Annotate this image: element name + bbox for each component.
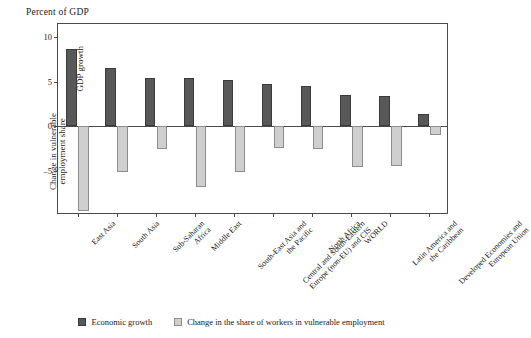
bar-vulnerable-employment-change	[117, 126, 128, 172]
legend-label: Change in the share of workers in vulner…	[187, 317, 384, 327]
legend-swatch-icon	[78, 318, 86, 326]
x-axis-label-line: East Asia	[89, 219, 117, 247]
y-tick-label: 0	[48, 121, 52, 131]
bar-economic-growth	[262, 84, 273, 127]
x-tick-mark	[351, 213, 352, 217]
chart-legend: Economic growthChange in the share of wo…	[0, 317, 463, 327]
bar-vulnerable-employment-change	[352, 126, 363, 167]
x-tick-mark	[429, 213, 430, 217]
x-tick-mark	[390, 213, 391, 217]
y-tick-label: –5	[44, 166, 53, 176]
x-tick-mark	[195, 213, 196, 217]
bar-vulnerable-employment-change	[313, 126, 324, 149]
x-axis-label-line: European Union	[464, 225, 531, 292]
bar-economic-growth	[340, 95, 351, 126]
y-tick-label: 10	[44, 32, 53, 42]
plot-area: GDP growth Change in vulnerable employme…	[57, 23, 448, 214]
bar-vulnerable-employment-change	[391, 126, 402, 166]
x-tick-mark	[234, 213, 235, 217]
y-tick-mark	[54, 37, 58, 38]
x-axis-label: South Asia	[130, 219, 161, 250]
bar-economic-growth	[418, 114, 429, 126]
x-axis-label: Middle East	[209, 219, 243, 253]
bar-economic-growth	[145, 78, 156, 126]
legend-swatch-icon	[174, 318, 182, 326]
chart-title: Percent of GDP	[26, 7, 89, 17]
y-tick-mark	[54, 82, 58, 83]
x-tick-mark	[312, 213, 313, 217]
x-tick-mark	[117, 213, 118, 217]
x-tick-mark	[273, 213, 274, 217]
x-axis-label: Sub-SaharanAfrica	[171, 219, 213, 261]
bar-vulnerable-employment-change	[78, 126, 89, 211]
x-axis-label: East Asia	[89, 219, 117, 247]
y-tick-label: 5	[48, 77, 52, 87]
y-axis-title-gdp-growth: GDP growth	[76, 34, 85, 104]
x-axis-label: Latin America andthe Caribbean	[411, 219, 466, 274]
x-axis-label: Developed Economies andEuropean Union	[458, 219, 531, 293]
bar-economic-growth	[105, 68, 116, 127]
bar-economic-growth	[184, 78, 195, 126]
x-axis-label-line: South Asia	[130, 219, 161, 250]
x-tick-mark	[156, 213, 157, 217]
bar-economic-growth	[66, 49, 77, 126]
bar-economic-growth	[301, 86, 312, 126]
bar-vulnerable-employment-change	[196, 126, 207, 186]
y-tick-mark	[54, 171, 58, 172]
bar-vulnerable-employment-change	[430, 126, 441, 135]
y-axis-title-vulnerable-employment: Change in vulnerable employment share	[49, 89, 68, 213]
x-axis-label-line: Middle East	[209, 219, 243, 253]
bar-vulnerable-employment-change	[274, 126, 285, 148]
legend-item-0: Economic growth	[78, 317, 152, 327]
legend-item-1: Change in the share of workers in vulner…	[174, 317, 384, 327]
bar-economic-growth	[379, 96, 390, 126]
zero-baseline	[58, 126, 447, 127]
x-tick-mark	[78, 213, 79, 217]
x-axis-label: South-East Asia andthe Pacific	[256, 219, 315, 278]
bar-vulnerable-employment-change	[235, 126, 246, 172]
y-tick-mark	[54, 126, 58, 127]
legend-label: Economic growth	[91, 317, 152, 327]
x-axis-label-line: Developed Economies and	[458, 219, 525, 286]
bar-economic-growth	[223, 80, 234, 126]
bar-vulnerable-employment-change	[157, 126, 168, 149]
